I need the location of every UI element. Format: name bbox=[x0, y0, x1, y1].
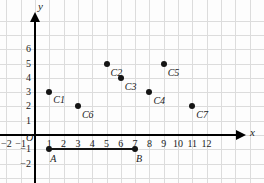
origin-label: O bbox=[26, 133, 33, 143]
x-axis-tick-label: 11 bbox=[187, 139, 197, 149]
grid-line-horizontal bbox=[0, 178, 264, 179]
coordinate-plane-figure: xy−2−1123456789101112654321−1−2OABC1C2C3… bbox=[0, 0, 264, 183]
grid-line-horizontal bbox=[0, 49, 264, 50]
grid-line-horizontal bbox=[0, 35, 264, 36]
y-axis-tick-label: −2 bbox=[13, 159, 31, 169]
data-point-label-c4: C4 bbox=[153, 96, 165, 106]
x-axis-tick-label: 12 bbox=[202, 139, 212, 149]
data-point-label-c7: C7 bbox=[196, 110, 208, 120]
y-axis bbox=[34, 20, 36, 183]
grid-line-horizontal bbox=[0, 121, 264, 122]
grid-line-horizontal bbox=[0, 92, 264, 93]
y-axis-tick-label: 2 bbox=[13, 101, 31, 111]
y-axis-label: y bbox=[38, 1, 43, 12]
y-axis-tick-label: −1 bbox=[13, 144, 31, 154]
data-point-c3 bbox=[118, 75, 124, 81]
grid-line-horizontal bbox=[0, 78, 264, 79]
grid-line-horizontal bbox=[0, 64, 264, 65]
x-axis-tick-label: 8 bbox=[147, 139, 152, 149]
y-axis-arrow-icon bbox=[30, 12, 40, 22]
x-axis-tick-label: −2 bbox=[1, 139, 12, 149]
data-point-c5 bbox=[161, 61, 167, 67]
grid-line-horizontal bbox=[0, 106, 264, 107]
grid-line-horizontal bbox=[0, 164, 264, 165]
data-point-label-c6: C6 bbox=[82, 110, 94, 120]
x-axis-label: x bbox=[250, 127, 255, 138]
y-axis-tick-label: 3 bbox=[13, 87, 31, 97]
x-axis-tick-label: 9 bbox=[161, 139, 166, 149]
data-point-label-c5: C5 bbox=[168, 68, 180, 78]
y-axis-tick-label: 6 bbox=[13, 44, 31, 54]
y-axis-tick-label: 5 bbox=[13, 59, 31, 69]
y-axis-tick-label: 4 bbox=[13, 73, 31, 83]
data-point-label-c3: C3 bbox=[125, 82, 137, 92]
y-axis-tick-label: 1 bbox=[13, 116, 31, 126]
segment-point-label-b: B bbox=[136, 154, 142, 164]
segment-ab bbox=[49, 148, 135, 150]
x-axis-tick-label: 10 bbox=[173, 139, 183, 149]
data-point-c2 bbox=[104, 61, 110, 67]
data-point-label-c1: C1 bbox=[53, 95, 65, 105]
x-axis-arrow-icon bbox=[236, 130, 246, 140]
segment-point-label-a: A bbox=[50, 154, 56, 164]
